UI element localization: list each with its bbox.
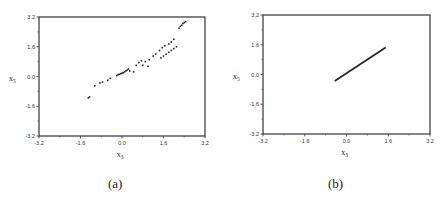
plot-frame — [263, 15, 430, 134]
scatter-plot-a: -3.2-1.60.01.63.2-3.2-1.60.01.63.2x3x5 — [0, 0, 222, 198]
y-axis-label: x5 — [233, 72, 240, 82]
y-axis-label: x5 — [9, 74, 16, 84]
y-tick-label: 3.2 — [27, 14, 35, 20]
x-tick-label: 0.0 — [118, 140, 126, 146]
x-tick-label: 3.2 — [201, 140, 209, 146]
y-tick-label: -1.6 — [26, 103, 35, 109]
y-tick-label: 3.2 — [251, 12, 259, 18]
caption-b: (b) — [328, 176, 343, 192]
x-tick-label: -3.2 — [34, 140, 43, 146]
x-tick-label: 3.2 — [426, 138, 434, 144]
x-tick-label: -1.6 — [300, 138, 309, 144]
y-tick-label: 0.0 — [251, 72, 259, 78]
y-tick-label: 1.6 — [251, 42, 259, 48]
data-line — [335, 48, 386, 81]
x-tick-label: -1.6 — [76, 140, 85, 146]
caption-a: (a) — [108, 176, 122, 192]
chart-panel-a: -3.2-1.60.01.63.2-3.2-1.60.01.63.2x3x5 (… — [0, 0, 222, 198]
x-tick-label: -3.2 — [258, 138, 267, 144]
y-tick-label: -1.6 — [250, 101, 259, 107]
scatter-points — [87, 21, 186, 99]
x-tick-label: 0.0 — [343, 138, 351, 144]
y-tick-label: 0.0 — [27, 74, 35, 80]
line-plot-b: -3.2-1.60.01.63.2-3.2-1.60.01.63.2x3x5 — [222, 0, 444, 198]
y-tick-label: -3.2 — [26, 133, 35, 139]
y-tick-label: -3.2 — [250, 131, 259, 137]
x-tick-label: 1.6 — [160, 140, 168, 146]
x-tick-label: 1.6 — [384, 138, 392, 144]
chart-panel-b: -3.2-1.60.01.63.2-3.2-1.60.01.63.2x3x5 (… — [222, 0, 444, 198]
plot-frame — [39, 17, 205, 136]
x-axis-label: x3 — [341, 148, 348, 158]
x-axis-label: x3 — [117, 150, 124, 160]
y-tick-label: 1.6 — [27, 44, 35, 50]
